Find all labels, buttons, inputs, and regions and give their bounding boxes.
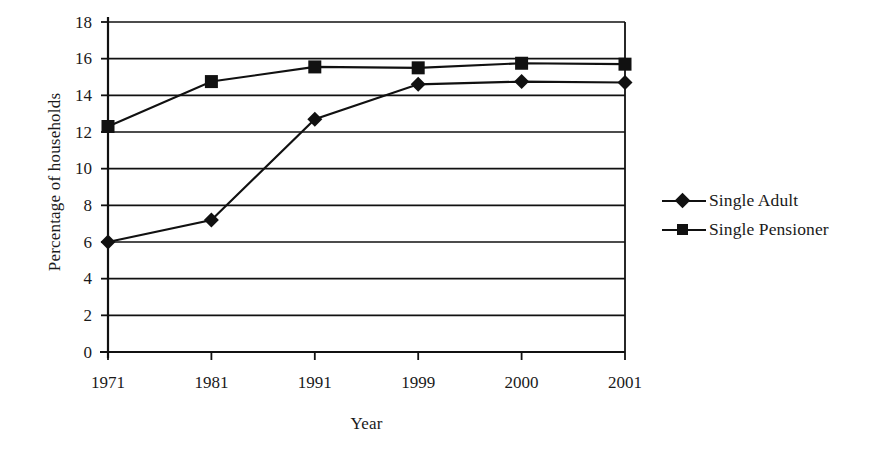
x-tick-label: 1981	[161, 374, 261, 391]
x-tick-label: 1971	[58, 374, 158, 391]
x-tick-label: 2001	[575, 374, 675, 391]
y-tick-label: 14	[50, 87, 92, 104]
x-tick-label: 2000	[472, 374, 572, 391]
data-point-marker	[412, 61, 425, 74]
data-point-marker	[101, 235, 116, 250]
legend-item-single-pensioner: Single Pensioner	[662, 215, 892, 244]
x-axis-title: Year	[108, 414, 625, 434]
y-tick-label: 16	[50, 50, 92, 67]
chart-legend: Single Adult Single Pensioner	[662, 186, 892, 244]
data-point-marker	[514, 74, 529, 89]
x-tick-label: 1991	[265, 374, 365, 391]
data-point-marker	[102, 120, 115, 133]
y-tick-label: 12	[50, 124, 92, 141]
y-tick-label: 4	[50, 270, 92, 287]
data-point-marker	[205, 75, 218, 88]
y-tick-label: 8	[50, 197, 92, 214]
series-line-0	[108, 82, 625, 242]
data-point-marker	[618, 75, 633, 90]
y-tick-label: 2	[50, 307, 92, 324]
chart-figure: Percentage of households Year Single Adu…	[0, 0, 896, 456]
x-tick-label: 1999	[368, 374, 468, 391]
square-marker-icon	[662, 220, 706, 240]
y-tick-label: 10	[50, 160, 92, 177]
y-tick-label: 6	[50, 234, 92, 251]
data-point-marker	[619, 58, 632, 71]
data-point-marker	[411, 77, 426, 92]
y-tick-label: 18	[50, 14, 92, 31]
data-point-marker	[308, 60, 321, 73]
legend-label-single-adult: Single Adult	[706, 190, 798, 211]
diamond-marker-icon	[662, 191, 706, 211]
y-tick-label: 0	[50, 344, 92, 361]
legend-label-single-pensioner: Single Pensioner	[706, 219, 829, 240]
legend-item-single-adult: Single Adult	[662, 186, 892, 215]
data-point-marker	[515, 57, 528, 70]
